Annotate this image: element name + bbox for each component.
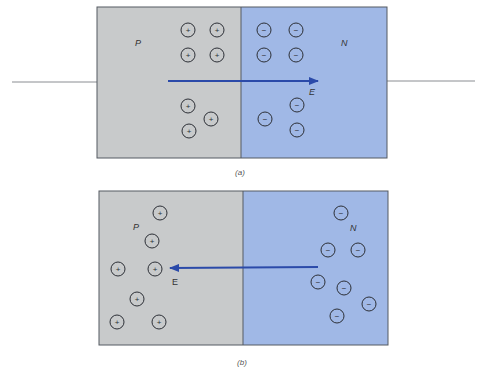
positive-charge-sign: + [158, 209, 163, 218]
negative-charge-sign: − [294, 51, 299, 60]
negative-charge-sign: − [326, 246, 331, 255]
field-label: E [172, 277, 178, 287]
positive-charge-sign: + [150, 237, 155, 246]
positive-charge-sign: + [186, 102, 191, 111]
pn-junction-diagram: P N E +++++++−−−−−−− (a) P N E +++++++−−… [0, 0, 477, 377]
positive-charge-sign: + [115, 318, 120, 327]
positive-charge-sign: + [215, 26, 220, 35]
positive-charge-sign: + [153, 265, 158, 274]
panel-a: P N E +++++++−−−−−−− (a) [12, 7, 475, 177]
n-label: N [350, 223, 357, 233]
positive-charge-sign: + [187, 127, 192, 136]
caption-a: (a) [235, 168, 245, 177]
positive-charge-sign: + [186, 26, 191, 35]
positive-charge-sign: + [209, 115, 214, 124]
negative-charge-sign: − [367, 300, 372, 309]
panel-b: P N E +++++++−−−−−−− (b) [99, 191, 388, 367]
negative-charge-sign: − [335, 312, 340, 321]
positive-charge-sign: + [186, 51, 191, 60]
n-label: N [341, 38, 348, 48]
negative-charge-sign: − [262, 51, 267, 60]
negative-charge-sign: − [295, 126, 300, 135]
negative-charge-sign: − [339, 209, 344, 218]
negative-charge-sign: − [295, 101, 300, 110]
positive-charge-sign: + [116, 265, 121, 274]
positive-charge-sign: + [135, 295, 140, 304]
p-region [97, 7, 241, 158]
p-label: P [133, 222, 139, 232]
caption-b: (b) [237, 358, 247, 367]
negative-charge-sign: − [342, 284, 347, 293]
negative-charge-sign: − [294, 26, 299, 35]
negative-charge-sign: − [262, 26, 267, 35]
p-label: P [135, 38, 141, 48]
field-label: E [309, 87, 316, 97]
negative-charge-sign: − [356, 246, 361, 255]
positive-charge-sign: + [215, 51, 220, 60]
positive-charge-sign: + [157, 318, 162, 327]
negative-charge-sign: − [316, 278, 321, 287]
negative-charge-sign: − [263, 115, 268, 124]
electric-field-arrow [170, 267, 318, 268]
